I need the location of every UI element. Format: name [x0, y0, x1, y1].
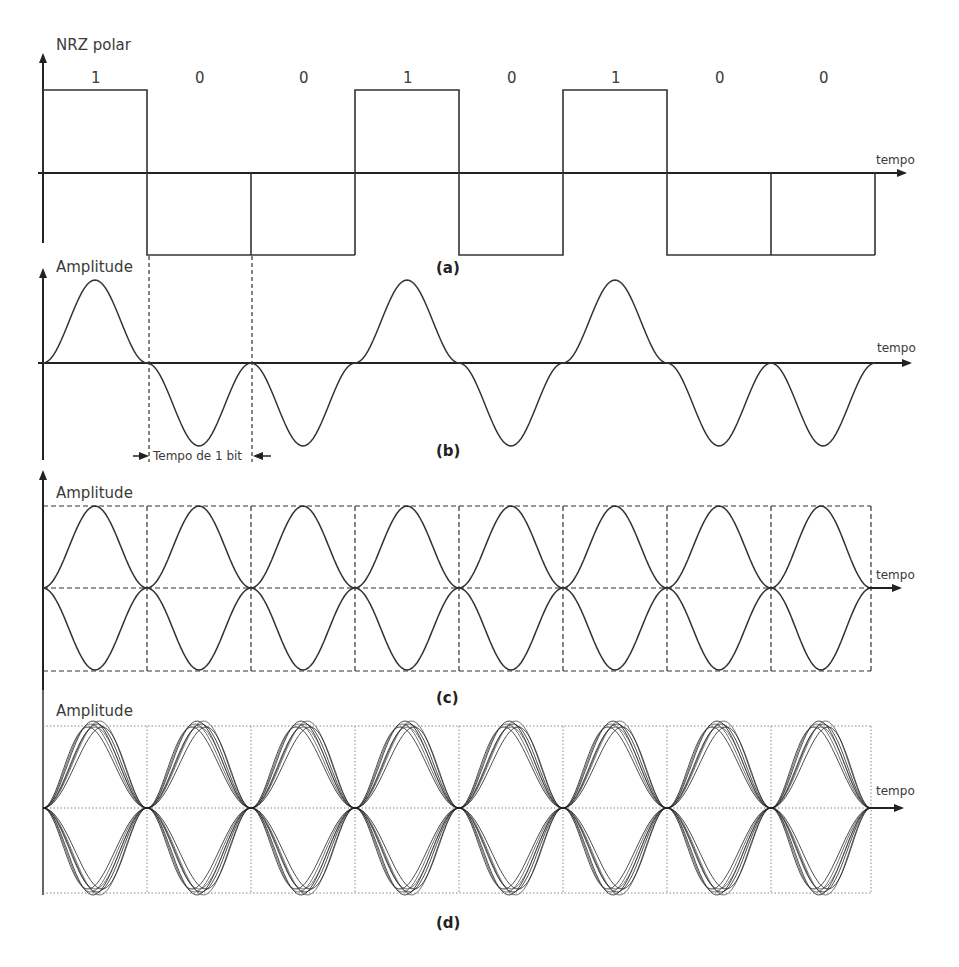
y-axis-label: Amplitude: [56, 258, 133, 276]
bit-label: 0: [299, 69, 309, 87]
x-axis-label: tempo: [876, 153, 915, 167]
bit-label: 0: [715, 69, 725, 87]
bit-label: 1: [403, 69, 413, 87]
bit-label: 1: [611, 69, 621, 87]
x-axis-label: tempo: [877, 341, 916, 355]
panel-b: Amplitude tempo Tempo de 1 bit (b): [38, 256, 916, 463]
y-axis-label: NRZ polar: [56, 36, 132, 54]
x-axis-label: tempo: [876, 568, 915, 582]
panel-d: Amplitude tempo (d): [43, 690, 915, 932]
caption-a: (a): [436, 259, 460, 277]
bit-label: 1: [91, 69, 101, 87]
bit-time-annotation: Tempo de 1 bit: [152, 449, 242, 463]
bit-label: 0: [507, 69, 517, 87]
eye-diagram-figure: NRZ polar tempo 10010100 (a) Amplitude t…: [0, 0, 959, 967]
y-axis-label: Amplitude: [56, 702, 133, 720]
bit-label: 0: [195, 69, 205, 87]
dotted-grid: [43, 726, 871, 893]
caption-d: (d): [436, 914, 460, 932]
panel-a: NRZ polar tempo 10010100 (a): [38, 36, 915, 277]
caption-c: (c): [436, 689, 459, 707]
bit-label: 0: [819, 69, 829, 87]
panel-c: Amplitude tempo (c): [43, 472, 915, 707]
bit-labels: 10010100: [91, 69, 829, 87]
x-axis-label: tempo: [876, 784, 915, 798]
y-axis-label: Amplitude: [56, 484, 133, 502]
caption-b: (b): [436, 442, 460, 460]
